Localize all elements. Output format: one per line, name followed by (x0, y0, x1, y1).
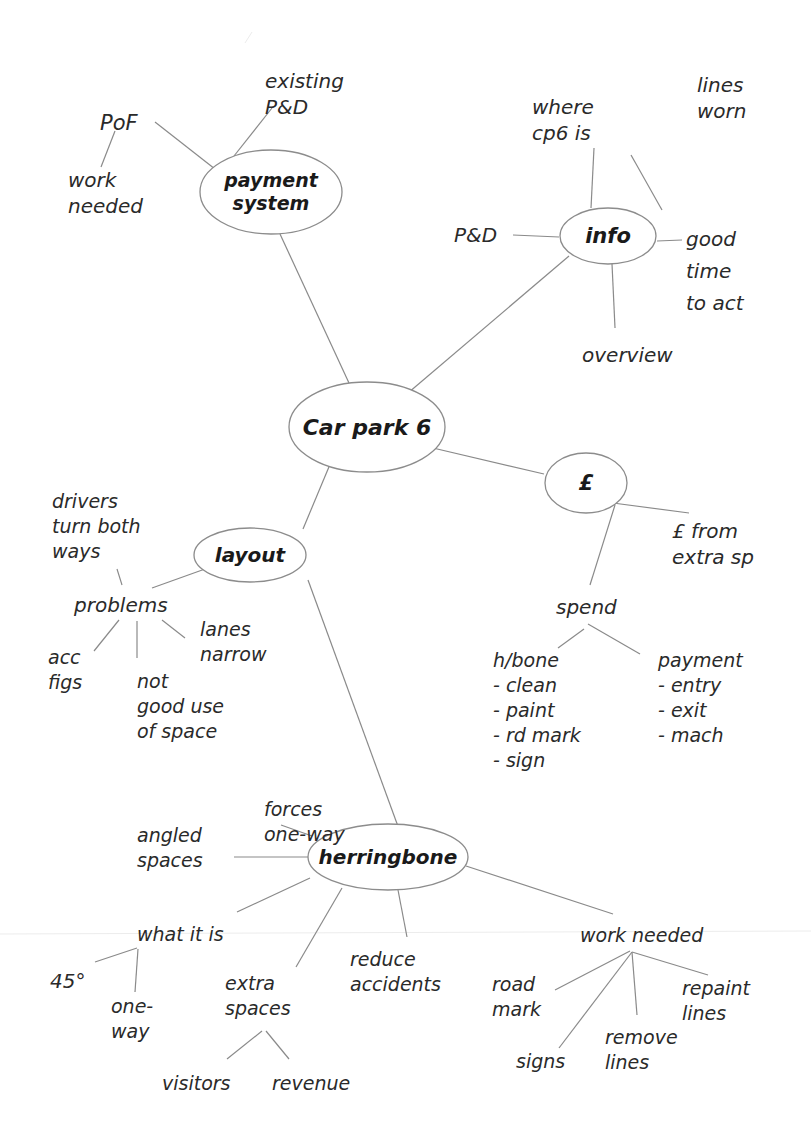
connector-line (612, 264, 615, 328)
leaf-extra-spaces: extraspaces (225, 972, 291, 1019)
leaf-info-pd: P&D (454, 223, 497, 247)
leaf-label: overview (582, 343, 673, 367)
leaf-label: ways (52, 540, 100, 562)
connector-line (590, 505, 615, 585)
leaf-label: remove (605, 1026, 678, 1048)
leaf-label: lines (605, 1051, 649, 1073)
leaf-label: lanes (200, 618, 251, 640)
leaf-label: to act (686, 291, 745, 315)
leaf-label: figs (48, 671, 82, 693)
connector-line (588, 624, 640, 654)
topic-nodes: Car park 6paymentsysteminfo£layoutherrin… (194, 150, 656, 890)
leaf-acc-figs: accfigs (48, 646, 82, 693)
leaf-label: acc (48, 646, 81, 668)
topic-node-layout[interactable]: layout (194, 528, 306, 582)
leaf-label: - sign (493, 749, 545, 771)
leaf-label: needed (68, 194, 143, 218)
leaf-label: PoF (100, 111, 139, 135)
leaf-lines-worn: linesworn (697, 73, 747, 123)
connector-line (237, 878, 310, 912)
leaf-label: lines (697, 73, 744, 97)
leaf-label: one- (111, 995, 153, 1017)
leaf-label: extra (225, 972, 275, 994)
connector-line (162, 620, 185, 638)
leaf-label: what it is (137, 923, 224, 945)
leaf-label: £ from (672, 519, 738, 543)
leaf-hbone-list: h/bone- clean- paint- rd mark- sign (493, 649, 582, 771)
leaf-problems: problems (73, 593, 168, 617)
connector-line (101, 131, 115, 167)
leaf-forces-one-way: forcesone-way (264, 798, 345, 845)
connector-line (433, 448, 544, 474)
leaf-label: problems (73, 593, 168, 617)
leaf-road-mark: roadmark (492, 973, 542, 1020)
leaf-signs: signs (516, 1050, 565, 1072)
leaf-where-cp6: wherecp6 is (532, 95, 594, 145)
leaf-label: P&D (265, 95, 308, 119)
connector-line (117, 569, 122, 585)
leaf-label: signs (516, 1050, 565, 1072)
connector-line (466, 866, 613, 914)
leaf-label: P&D (454, 223, 497, 247)
topic-label: £ (579, 471, 594, 495)
mind-map-canvas: Car park 6paymentsysteminfo£layoutherrin… (0, 0, 811, 1139)
leaf-label: work needed (580, 924, 704, 946)
leaf-label: - rd mark (493, 724, 582, 746)
connector-line (555, 951, 630, 990)
topic-node-pound[interactable]: £ (545, 453, 627, 513)
leaf-label: visitors (162, 1072, 231, 1094)
leaf-label: one-way (264, 823, 345, 845)
topic-label: herringbone (319, 845, 458, 869)
leaf-pound-extra: £ fromextra sp (672, 519, 754, 569)
leaf-label: good (686, 227, 736, 251)
leaf-label: cp6 is (532, 121, 591, 145)
topic-label: info (585, 224, 631, 248)
leaf-label: reduce (350, 948, 416, 970)
connector-line (296, 888, 342, 967)
topic-node-payment[interactable]: paymentsystem (200, 150, 342, 234)
leaf-label: lines (682, 1002, 726, 1024)
leaf-spend: spend (556, 595, 617, 619)
connector-line (558, 629, 584, 648)
connector-line (94, 620, 119, 651)
leaf-remove-lines: removelines (605, 1026, 678, 1073)
leaf-label: spend (556, 595, 617, 619)
topic-label: Car park 6 (303, 415, 432, 440)
leaf-label: where (532, 95, 594, 119)
connector-line (152, 569, 205, 588)
leaf-reduce-accidents: reduceaccidents (350, 948, 441, 995)
connector-line (95, 948, 137, 962)
leaf-revenue: revenue (272, 1072, 350, 1094)
connector-line (513, 235, 559, 237)
leaf-visitors: visitors (162, 1072, 231, 1094)
leaf-label: - entry (658, 674, 722, 696)
topic-node-center[interactable]: Car park 6 (289, 382, 445, 472)
leaf-pof: PoF (100, 111, 139, 135)
leaf-good-time: goodtimeto act (686, 227, 745, 315)
leaf-label: 45° (50, 969, 85, 993)
leaf-label: good use (137, 695, 224, 717)
leaf-label: - clean (493, 674, 557, 696)
leaf-label: revenue (272, 1072, 350, 1094)
leaf-label: of space (137, 720, 217, 742)
leaf-one-way: one-way (111, 995, 153, 1042)
leaf-label: - exit (658, 699, 708, 721)
leaf-label: not (137, 670, 170, 692)
leaf-label: narrow (200, 643, 267, 665)
leaf-label: mark (492, 998, 542, 1020)
leaf-label: spaces (137, 849, 203, 871)
leaf-label: payment (657, 649, 744, 671)
leaf-label: way (111, 1020, 150, 1042)
topic-label: payment (223, 169, 318, 191)
connector-line (280, 234, 349, 383)
connector-line (398, 890, 407, 937)
leaf-angled-spaces: angledspaces (137, 824, 203, 871)
leaf-label: work (68, 168, 118, 192)
topic-node-info[interactable]: info (560, 208, 656, 264)
topic-label: system (233, 192, 310, 214)
leaf-label: repaint (682, 977, 752, 999)
leaf-what-it-is: what it is (137, 923, 224, 945)
leaf-payment-list: payment - entry - exit - mach (657, 649, 744, 746)
leaf-label: - mach (658, 724, 724, 746)
leaf-label: existing (265, 69, 344, 93)
